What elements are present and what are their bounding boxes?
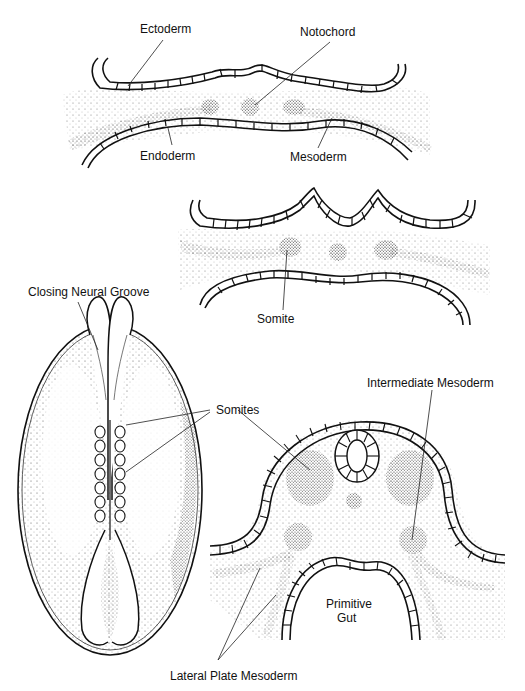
- embryology-illustration: [0, 0, 525, 691]
- label-primitive-gut-line1: Primitive: [326, 598, 372, 610]
- panel-a-cross-section: [62, 40, 432, 168]
- notochord-shape: [241, 98, 259, 116]
- panel-d-cross-section: [210, 390, 505, 660]
- panel-b-cross-section: [178, 188, 490, 325]
- panel-c-embryo-dorsal-view: [18, 297, 210, 655]
- label-endoderm: Endoderm: [140, 150, 195, 162]
- label-notochord: Notochord: [300, 26, 355, 38]
- label-closing-neural-groove: Closing Neural Groove: [28, 286, 149, 298]
- label-intermediate-mesoderm: Intermediate Mesoderm: [367, 377, 494, 389]
- label-ectoderm: Ectoderm: [140, 23, 191, 35]
- label-lateral-plate-mesoderm: Lateral Plate Mesoderm: [170, 670, 297, 682]
- label-mesoderm: Mesoderm: [290, 151, 347, 163]
- label-somites: Somites: [216, 404, 259, 416]
- label-primitive-gut-line2: Gut: [337, 612, 356, 624]
- label-somite: Somite: [257, 313, 294, 325]
